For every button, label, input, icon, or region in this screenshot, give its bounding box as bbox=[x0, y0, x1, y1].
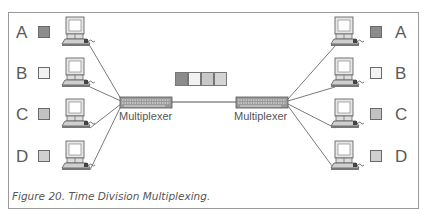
computer-icon bbox=[62, 99, 95, 128]
frame-slot-d bbox=[214, 72, 227, 86]
left-links bbox=[90, 46, 121, 170]
station-color-right-c bbox=[370, 108, 382, 120]
station-label-left-b: B bbox=[16, 65, 27, 82]
station-color-left-d bbox=[38, 150, 50, 162]
tdm-frame bbox=[175, 72, 227, 86]
station-color-left-c bbox=[38, 108, 50, 120]
computer-icon bbox=[62, 17, 95, 46]
frame-slot-c bbox=[201, 72, 214, 86]
computer-icon bbox=[331, 17, 364, 46]
station-label-right-a: A bbox=[395, 24, 406, 41]
left-multiplexer-label: Multiplexer bbox=[119, 110, 172, 122]
station-label-left-a: A bbox=[16, 24, 27, 41]
right-multiplexer-label: Multiplexer bbox=[234, 110, 287, 122]
station-color-right-a bbox=[370, 26, 382, 38]
tdm-diagram bbox=[0, 0, 428, 219]
computer-icon bbox=[62, 141, 95, 170]
computer-icon bbox=[331, 141, 364, 170]
computer-icon bbox=[331, 99, 364, 128]
station-color-left-b bbox=[38, 67, 50, 79]
station-color-right-b bbox=[370, 67, 382, 79]
station-label-right-d: D bbox=[395, 148, 407, 165]
right-links bbox=[288, 46, 335, 170]
station-label-right-c: C bbox=[395, 106, 407, 123]
station-color-right-d bbox=[370, 150, 382, 162]
computer-icon bbox=[331, 58, 364, 87]
station-color-left-a bbox=[38, 26, 50, 38]
station-label-right-b: B bbox=[395, 65, 406, 82]
computer-icon bbox=[62, 58, 95, 87]
frame-slot-b bbox=[188, 72, 201, 86]
frame-slot-a bbox=[175, 72, 188, 86]
figure-caption: Figure 20. Time Division Multiplexing. bbox=[12, 190, 210, 202]
multiplexer-device-icon bbox=[236, 97, 288, 108]
station-label-left-c: C bbox=[16, 106, 28, 123]
station-label-left-d: D bbox=[16, 148, 28, 165]
multiplexer-device-icon bbox=[120, 97, 172, 108]
